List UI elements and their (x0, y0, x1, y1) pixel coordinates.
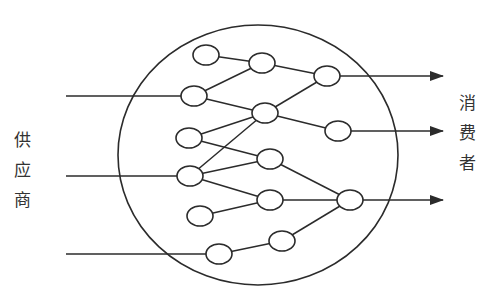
network-node-L (187, 206, 213, 226)
supply-network-diagram (0, 0, 493, 301)
consumer-label-char: 费 (457, 118, 477, 148)
network-node-H (177, 166, 203, 186)
consumer-label: 消 费 者 (457, 88, 477, 178)
network-node-B (181, 86, 207, 106)
network-node-E (252, 103, 278, 123)
network-node-I (257, 149, 283, 169)
network-node-C (249, 53, 275, 73)
network-edge (190, 113, 265, 176)
network-node-D (314, 66, 340, 86)
consumer-label-char: 者 (457, 148, 477, 178)
network-node-F (176, 128, 202, 148)
supplier-label-char: 商 (12, 185, 32, 215)
supplier-label-char: 应 (12, 155, 32, 185)
network-edge (270, 159, 350, 200)
network-node-J (257, 190, 283, 210)
supplier-label-char: 供 (12, 125, 32, 155)
network-node-K (337, 190, 363, 210)
consumer-label-char: 消 (457, 88, 477, 118)
network-node-N (269, 231, 295, 251)
supplier-label: 供 应 商 (12, 125, 32, 215)
network-node-M (206, 244, 232, 264)
network-node-G (325, 121, 351, 141)
network-node-A (193, 45, 219, 65)
